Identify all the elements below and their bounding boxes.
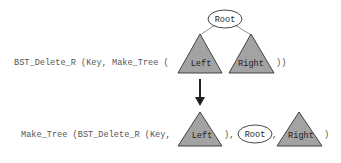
transform-arrow-icon — [195, 79, 205, 106]
bottom-sep1-text: ), — [224, 130, 234, 140]
bottom-left-label: Left — [192, 131, 213, 141]
top-right-label: Right — [238, 59, 264, 69]
bottom-right-label: Right — [288, 131, 314, 141]
top-expression: BST_Delete_R (Key, Make_Tree ( Root Left… — [14, 10, 286, 73]
bottom-left-subtree: Left — [178, 112, 222, 146]
bottom-right-subtree: Right — [277, 112, 322, 146]
bottom-prefix-text: Make_Tree (BST_Delete_R (Key, — [21, 130, 171, 140]
top-root-label: Root — [215, 15, 236, 25]
root-right-edge — [235, 25, 251, 35]
bst-delete-diagram: BST_Delete_R (Key, Make_Tree ( Root Left… — [0, 0, 341, 163]
top-left-subtree: Left — [178, 34, 222, 73]
bottom-root-node: Root — [238, 125, 272, 143]
top-right-subtree: Right — [229, 34, 274, 73]
top-prefix-text: BST_Delete_R (Key, Make_Tree ( — [14, 58, 169, 68]
bottom-root-label: Root — [245, 130, 266, 140]
top-root-node: Root — [208, 10, 242, 28]
root-left-edge — [200, 25, 215, 35]
bottom-sep2-text: , — [272, 130, 277, 140]
top-left-label: Left — [191, 59, 212, 69]
bottom-suffix-text: ) — [324, 130, 329, 140]
bottom-expression: Make_Tree (BST_Delete_R (Key, Left ), Ro… — [21, 112, 329, 146]
top-suffix-text: )) — [276, 58, 286, 68]
